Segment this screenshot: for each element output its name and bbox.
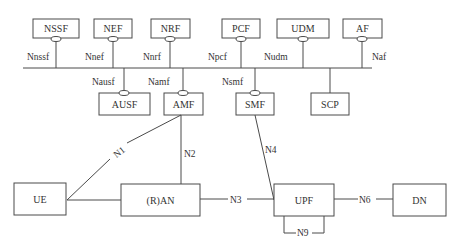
nssf-label: NSSF <box>44 23 68 34</box>
nssf-sbi-icon <box>51 37 61 42</box>
upf-label: UPF <box>295 195 314 206</box>
n4-link <box>255 115 274 200</box>
n9-loop-left <box>284 216 296 233</box>
nnrf-label: Nnrf <box>143 52 162 62</box>
scp-label: SCP <box>321 99 339 110</box>
n2-label: N2 <box>184 149 196 159</box>
amf-label: AMF <box>173 99 195 110</box>
ue-label: UE <box>33 194 46 205</box>
nsmf-label: Nsmf <box>222 77 244 87</box>
amf-sbi-icon <box>178 91 188 96</box>
n6-label: N6 <box>359 195 371 205</box>
n4-label: N4 <box>265 145 277 155</box>
udm-label: UDM <box>291 23 314 34</box>
nudm-label: Nudm <box>264 52 288 62</box>
n1-link-lower <box>67 159 110 200</box>
nrf-label: NRF <box>161 23 181 34</box>
nrf-sbi-icon <box>165 37 175 42</box>
namf-label: Namf <box>148 77 170 87</box>
nnssf-label: Nnssf <box>27 52 50 62</box>
dn-label: DN <box>412 195 426 206</box>
naf-label: Naf <box>372 52 387 62</box>
ausf-sbi-icon <box>119 91 129 96</box>
network-architecture-diagram: NSSF NEF NRF PCF UDM AF Nnssf Nnef Nnrf … <box>0 0 459 248</box>
af-label: AF <box>356 23 369 34</box>
nef-label: NEF <box>104 23 123 34</box>
pcf-sbi-icon <box>236 37 246 42</box>
n9-label: N9 <box>297 228 309 238</box>
smf-label: SMF <box>245 99 265 110</box>
n3-label: N3 <box>230 195 242 205</box>
af-sbi-icon <box>357 37 367 42</box>
npcf-label: Npcf <box>208 52 228 62</box>
n9-loop-right <box>312 216 324 233</box>
n1-label: N1 <box>112 145 128 160</box>
nausf-label: Nausf <box>92 77 116 87</box>
ran-label: (R)AN <box>147 195 175 207</box>
smf-sbi-icon <box>250 91 260 96</box>
pcf-label: PCF <box>232 23 250 34</box>
udm-sbi-icon <box>298 37 308 42</box>
nef-sbi-icon <box>108 37 118 42</box>
n1-link-upper <box>127 115 181 143</box>
ausf-label: AUSF <box>112 99 138 110</box>
nnef-label: Nnef <box>85 52 105 62</box>
